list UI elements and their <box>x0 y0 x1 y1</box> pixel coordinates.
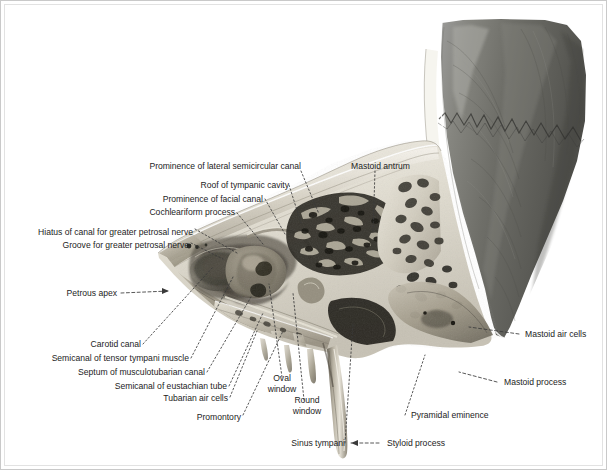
label-hiatus-of-canal-for-greater-petrosal-nerve: Hiatus of canal for greater petrosal ner… <box>7 227 193 238</box>
label-promontory: Promontory <box>101 412 241 423</box>
label-oval-window-line2: window <box>256 384 308 395</box>
label-styloid-process: Styloid process <box>387 438 445 449</box>
label-semicanal-of-tensor-tympani-muscle: Semicanal of tensor tympani muscle <box>5 353 189 364</box>
label-carotid-canal: Carotid canal <box>7 339 141 350</box>
anatomy-plate: Prominence of lateral semicircular canal… <box>0 0 607 470</box>
label-oval-window-line1: Oval <box>256 373 308 384</box>
label-groove-for-greater-petrosal-nerve: Groove for greater petrosal nerve <box>7 240 189 251</box>
label-oval-window: Oval window <box>256 373 308 394</box>
label-mastoid-antrum: Mastoid antrum <box>351 161 410 172</box>
label-roof-of-tympanic-cavity: Roof of tympanic cavity <box>11 180 289 191</box>
label-mastoid-air-cells: Mastoid air cells <box>525 329 586 340</box>
label-round-window-line1: Round <box>278 395 336 406</box>
label-pyramidal-eminence: Pyramidal eminence <box>411 410 489 421</box>
label-round-window-line2: window <box>278 406 336 417</box>
label-cochleariform-process: Cochleariform process <box>11 207 235 218</box>
label-round-window: Round window <box>278 395 336 416</box>
label-semicanal-of-eustachian-tube: Semicanal of eustachian tube <box>5 381 227 392</box>
label-petrous-apex: Petrous apex <box>7 288 117 299</box>
label-prominence-of-lateral-semicircular-canal: Prominence of lateral semicircular canal <box>11 161 301 172</box>
label-septum-of-musculotubarian-canal: Septum of musculotubarian canal <box>5 367 205 378</box>
label-prominence-of-facial-canal: Prominence of facial canal <box>11 194 263 205</box>
label-mastoid-process: Mastoid process <box>504 377 566 388</box>
label-sinus-tympani: Sinus tympani <box>261 438 345 449</box>
label-tubarian-air-cells: Tubarian air cells <box>41 393 228 404</box>
